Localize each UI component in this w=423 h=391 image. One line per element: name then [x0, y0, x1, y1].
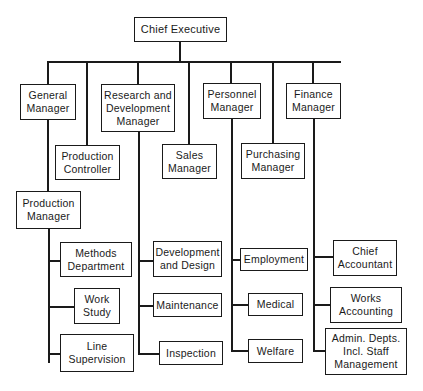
chief-accountant-box: Chief Accountant	[333, 240, 397, 276]
connector-line	[138, 305, 153, 307]
connector-line	[313, 256, 333, 258]
maintenance-box: Maintenance	[153, 293, 222, 317]
methods-department-box: Methods Department	[60, 242, 132, 277]
general-manager-box: General Manager	[20, 84, 76, 120]
connector-line	[48, 306, 74, 308]
connector-line	[179, 41, 181, 63]
connector-line	[231, 350, 248, 352]
connector-line	[47, 61, 49, 84]
connector-line	[313, 350, 325, 352]
finance-manager-box: Finance Manager	[286, 83, 341, 119]
connector-line	[231, 304, 248, 306]
chief-executive-box: Chief Executive	[134, 17, 227, 42]
connector-line	[86, 61, 88, 145]
connector-line	[48, 228, 50, 363]
connector-line	[48, 260, 60, 262]
connector-line	[231, 118, 233, 352]
connector-line	[47, 61, 341, 63]
connector-line	[312, 61, 314, 83]
line-supervision-box: Line Supervision	[60, 334, 134, 372]
connector-line	[272, 61, 274, 143]
connector-line	[188, 61, 190, 144]
sales-manager-box: Sales Manager	[162, 144, 217, 179]
welfare-box: Welfare	[248, 339, 303, 363]
production-controller-box: Production Controller	[55, 145, 120, 180]
connector-line	[313, 304, 330, 306]
work-study-box: Work Study	[74, 288, 120, 324]
connector-line	[138, 260, 153, 262]
connector-line	[47, 119, 49, 191]
medical-box: Medical	[248, 293, 303, 316]
personnel-manager-box: Personnel Manager	[203, 83, 261, 119]
connector-line	[230, 61, 232, 83]
employment-box: Employment	[240, 248, 308, 271]
purchasing-manager-box: Purchasing Manager	[241, 143, 305, 179]
development-and-design-box: Development and Design	[153, 241, 222, 277]
admin-depts-box: Admin. Depts. Incl. Staff Management	[325, 328, 407, 375]
rnd-manager-box: Research and Development Manager	[101, 84, 175, 132]
production-manager-box: Production Manager	[16, 191, 81, 229]
inspection-box: Inspection	[159, 341, 223, 365]
works-accounting-box: Works Accounting	[330, 287, 402, 323]
connector-line	[231, 259, 240, 261]
org-chart: Chief Executive General Manager Research…	[0, 0, 423, 391]
connector-line	[138, 131, 140, 355]
connector-line	[313, 118, 315, 352]
connector-line	[48, 353, 60, 355]
connector-line	[137, 61, 139, 84]
connector-line	[138, 353, 159, 355]
